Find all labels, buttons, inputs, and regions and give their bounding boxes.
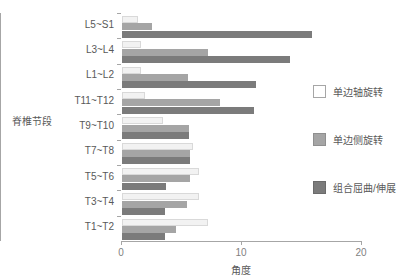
bar <box>122 81 256 88</box>
legend-label: 单边轴旋转 <box>333 84 383 99</box>
bar <box>122 168 199 175</box>
bar <box>122 233 165 240</box>
x-axis-tick-label: 0 <box>118 247 124 258</box>
bar <box>122 16 138 23</box>
y-axis-tick-label: T7~T8 <box>85 146 114 156</box>
legend-item[interactable]: 单边轴旋转 <box>313 84 383 99</box>
x-axis-title: 角度 <box>121 262 361 277</box>
x-axis-tick <box>241 241 242 245</box>
bar <box>122 143 193 150</box>
y-axis-tick-label: L3~L4 <box>86 45 114 55</box>
bar-group: L5~S1 <box>121 13 361 38</box>
y-axis-title: 脊椎节段 <box>4 113 60 128</box>
legend-label: 单边侧旋转 <box>333 132 383 147</box>
y-axis-tick <box>117 140 121 141</box>
y-axis-tick <box>117 165 121 166</box>
bar <box>122 31 312 38</box>
bar <box>122 150 190 157</box>
y-axis-tick-label: T1~T2 <box>85 222 114 232</box>
legend-swatch-icon <box>313 181 326 194</box>
y-axis-tick-label: T5~T6 <box>85 172 114 182</box>
bar <box>122 41 141 48</box>
legend-swatch-icon <box>313 85 326 98</box>
bar <box>122 92 145 99</box>
y-axis-tick-label: T3~T4 <box>85 197 114 207</box>
bar <box>122 132 189 139</box>
y-axis-tick <box>117 38 121 39</box>
bar <box>122 99 220 106</box>
y-axis-tick-label: T11~T12 <box>74 96 114 106</box>
y-axis-tick-label: L5~S1 <box>85 20 114 30</box>
bar <box>122 219 208 226</box>
bar <box>122 23 152 30</box>
plot-area: L5~S1L3~L4L1~L2T11~T12T9~T10T7~T8T5~T6T3… <box>121 13 361 241</box>
x-axis-tick <box>361 241 362 245</box>
legend-item[interactable]: 组合屈曲/伸展 <box>313 180 396 195</box>
y-axis-tick <box>117 89 121 90</box>
legend-swatch-icon <box>313 133 326 146</box>
bar <box>122 201 187 208</box>
bar-chart: 脊椎节段 L5~S1L3~L4L1~L2T11~T12T9~T10T7~T8T5… <box>0 0 414 280</box>
y-axis-tick <box>117 13 121 14</box>
bar <box>122 107 254 114</box>
bar <box>122 56 290 63</box>
bar <box>122 193 199 200</box>
y-axis-tick-label: T9~T10 <box>79 121 114 131</box>
bar <box>122 208 165 215</box>
bar-group: T1~T2 <box>121 216 361 241</box>
bar <box>122 175 190 182</box>
x-axis-tick-label: 20 <box>355 247 366 258</box>
legend-item[interactable]: 单边侧旋转 <box>313 132 383 147</box>
x-axis-tick-label: 10 <box>235 247 246 258</box>
bar <box>122 117 163 124</box>
bar <box>122 67 141 74</box>
x-axis-tick <box>121 241 122 245</box>
bar <box>122 226 176 233</box>
y-axis-tick <box>117 216 121 217</box>
bar <box>122 49 208 56</box>
y-axis-tick <box>117 64 121 65</box>
bar <box>122 183 166 190</box>
bar <box>122 74 188 81</box>
y-axis-tick <box>117 190 121 191</box>
y-axis-tick <box>117 114 121 115</box>
bar-group: L3~L4 <box>121 38 361 63</box>
bar <box>122 157 190 164</box>
legend-label: 组合屈曲/伸展 <box>333 180 396 195</box>
y-axis-tick-label: L1~L2 <box>86 70 114 80</box>
y-axis-line <box>0 13 1 241</box>
bar <box>122 125 189 132</box>
